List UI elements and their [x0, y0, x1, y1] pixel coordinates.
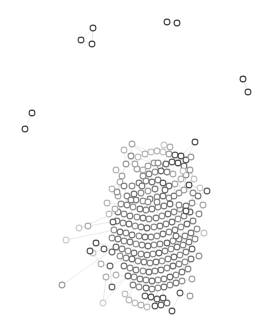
graph-node[interactable] [121, 211, 127, 217]
graph-node[interactable] [182, 233, 188, 239]
graph-node[interactable] [119, 246, 125, 252]
graph-node[interactable] [131, 274, 137, 280]
graph-node[interactable] [137, 276, 143, 282]
graph-node[interactable] [145, 243, 151, 249]
graph-node[interactable] [109, 235, 115, 241]
graph-node[interactable] [143, 285, 149, 291]
graph-node[interactable] [159, 213, 165, 219]
graph-node[interactable] [123, 255, 129, 261]
graph-node[interactable] [128, 153, 134, 159]
graph-node[interactable] [135, 258, 141, 264]
graph-node[interactable] [101, 246, 107, 252]
graph-node[interactable] [123, 161, 129, 167]
graph-node[interactable] [131, 191, 137, 197]
graph-node[interactable] [190, 218, 196, 224]
graph-node[interactable] [172, 181, 178, 187]
graph-node[interactable] [125, 248, 131, 254]
graph-node[interactable] [173, 280, 179, 286]
graph-node[interactable] [167, 282, 173, 288]
graph-node[interactable] [130, 282, 136, 288]
graph-node[interactable] [155, 277, 161, 283]
graph-node[interactable] [188, 230, 194, 236]
graph-node[interactable] [129, 256, 135, 262]
graph-node[interactable] [141, 259, 147, 265]
graph-node[interactable] [140, 215, 146, 221]
graph-node[interactable] [126, 221, 132, 227]
graph-node[interactable] [196, 211, 202, 217]
graph-node[interactable] [157, 241, 163, 247]
graph-node[interactable] [190, 190, 196, 196]
graph-node[interactable] [183, 249, 189, 255]
graph-node[interactable] [98, 261, 104, 267]
graph-node[interactable] [29, 110, 35, 116]
graph-node[interactable] [192, 236, 198, 242]
graph-node[interactable] [161, 276, 167, 282]
graph-node[interactable] [147, 260, 153, 266]
graph-node[interactable] [162, 248, 168, 254]
graph-node[interactable] [172, 152, 178, 158]
graph-node[interactable] [135, 154, 141, 160]
graph-node[interactable] [160, 180, 166, 186]
graph-node[interactable] [164, 300, 170, 306]
graph-node[interactable] [110, 219, 116, 225]
graph-node[interactable] [184, 221, 190, 227]
graph-node[interactable] [154, 148, 160, 154]
graph-node[interactable] [154, 233, 160, 239]
graph-node[interactable] [169, 308, 175, 314]
graph-node[interactable] [178, 224, 184, 230]
graph-node[interactable] [121, 263, 127, 269]
graph-node[interactable] [63, 237, 69, 243]
graph-node[interactable] [140, 173, 146, 179]
graph-node[interactable] [22, 126, 28, 132]
graph-node[interactable] [146, 171, 152, 177]
graph-node[interactable] [154, 199, 160, 205]
graph-node[interactable] [186, 239, 192, 245]
graph-node[interactable] [128, 197, 134, 203]
graph-node[interactable] [156, 250, 162, 256]
graph-node[interactable] [152, 268, 158, 274]
graph-node[interactable] [127, 213, 133, 219]
graph-node[interactable] [160, 231, 166, 237]
graph-node[interactable] [164, 265, 170, 271]
graph-node[interactable] [139, 183, 145, 189]
graph-node[interactable] [139, 242, 145, 248]
graph-node[interactable] [163, 161, 169, 167]
graph-node[interactable] [182, 259, 188, 265]
graph-node[interactable] [179, 269, 185, 275]
graph-node[interactable] [132, 223, 138, 229]
graph-node[interactable] [146, 269, 152, 275]
graph-node[interactable] [166, 151, 172, 157]
graph-node[interactable] [109, 249, 115, 255]
graph-node[interactable] [122, 291, 128, 297]
graph-node[interactable] [185, 266, 191, 272]
graph-node[interactable] [138, 224, 144, 230]
graph-node[interactable] [118, 201, 124, 207]
graph-node[interactable] [175, 216, 181, 222]
graph-node[interactable] [145, 163, 151, 169]
graph-node[interactable] [131, 250, 137, 256]
graph-node[interactable] [59, 282, 65, 288]
graph-node[interactable] [146, 216, 152, 222]
graph-node[interactable] [111, 227, 117, 233]
graph-node[interactable] [176, 261, 182, 267]
graph-node[interactable] [160, 295, 166, 301]
graph-node[interactable] [151, 224, 157, 230]
graph-node[interactable] [192, 139, 198, 145]
graph-node[interactable] [144, 304, 150, 310]
graph-node[interactable] [189, 246, 195, 252]
graph-node[interactable] [126, 297, 132, 303]
graph-node[interactable] [151, 242, 157, 248]
graph-node[interactable] [178, 176, 184, 182]
graph-node[interactable] [121, 238, 127, 244]
graph-node[interactable] [167, 274, 173, 280]
graph-node[interactable] [127, 239, 133, 245]
graph-node[interactable] [164, 19, 170, 25]
graph-node[interactable] [89, 41, 95, 47]
graph-node[interactable] [138, 190, 144, 196]
graph-node[interactable] [194, 226, 200, 232]
graph-node[interactable] [158, 267, 164, 273]
graph-node[interactable] [107, 263, 113, 269]
graph-node[interactable] [103, 274, 109, 280]
graph-node[interactable] [173, 233, 179, 239]
graph-node[interactable] [143, 277, 149, 283]
